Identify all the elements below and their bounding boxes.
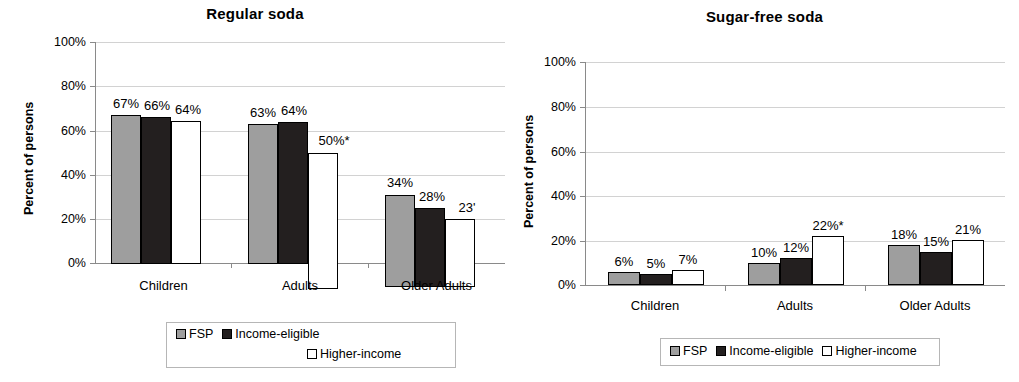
category-tick-1-regular (231, 263, 232, 268)
legend-swatch-income-eligible-icon (716, 346, 726, 356)
legend-swatch-higher-income-icon (822, 346, 832, 356)
data-label-sugarfree-adults-income: 12% (769, 240, 823, 255)
plot-area-sugarfree: 6% 5% 7% 10% 12% 22%* 18% 15% 21% (585, 62, 1005, 286)
legend-entry-income-eligible-sugarfree: Income-eligible (716, 344, 813, 358)
category-label-regular-older: Older Adults (368, 278, 505, 293)
category-tick-2-sugarfree (865, 285, 866, 291)
y-tick-mark-100-regular (90, 42, 95, 43)
y-tick-mark-40-sugarfree (580, 196, 585, 197)
y-tick-label-40-sugarfree: 40% (524, 189, 576, 203)
legend-label-income-eligible-regular: Income-eligible (235, 327, 319, 341)
category-label-sugarfree-children: Children (585, 298, 725, 313)
data-label-regular-older-higher: 23' (440, 200, 494, 215)
y-tick-label-20-regular: 20% (34, 212, 86, 226)
y-tick-mark-0-regular (90, 263, 95, 264)
y-tick-mark-40-regular (90, 175, 95, 176)
bar-regular-adults-higher (308, 153, 338, 289)
data-label-regular-adults-income: 64% (267, 103, 321, 118)
category-label-regular-children: Children (95, 278, 232, 293)
bar-sugarfree-children-fsp (608, 272, 640, 285)
y-tick-label-40-regular: 40% (34, 168, 86, 182)
y-tick-label-100-regular: 100% (34, 35, 86, 49)
y-tick-label-100-sugarfree: 100% (524, 55, 576, 69)
data-label-sugarfree-children-higher: 7% (661, 252, 715, 267)
y-axis-title-regular: Percent of persons (22, 102, 36, 215)
data-label-regular-children-higher: 64% (161, 102, 215, 117)
category-label-regular-adults: Adults (232, 278, 368, 293)
legend-entry-income-eligible-regular: Income-eligible (222, 327, 319, 341)
plot-area-regular: 67% 66% 64% 63% 64% 50%* 34% 28% 23' (95, 42, 505, 264)
legend-swatch-fsp-icon (176, 329, 186, 339)
bar-sugarfree-older-income (920, 252, 952, 285)
y-tick-label-60-regular: 60% (34, 124, 86, 138)
y-tick-mark-100-sugarfree (580, 62, 585, 63)
bar-regular-children-income (141, 117, 171, 264)
y-tick-label-80-sugarfree: 80% (524, 100, 576, 114)
y-tick-mark-20-regular (90, 219, 95, 220)
legend-swatch-income-eligible-icon (222, 329, 232, 339)
legend-label-fsp-regular: FSP (189, 327, 213, 341)
y-tick-label-0-regular: 0% (34, 256, 86, 270)
chart-title-sugar-free-soda: Sugar-free soda (510, 8, 1019, 25)
gridline-40-sf (585, 196, 1005, 197)
data-label-sugarfree-older-higher: 21% (941, 222, 995, 237)
figure-two-panel-bar-charts: Regular soda Percent of persons (0, 0, 1019, 382)
legend-regular: FSP Income-eligible Higher-income (166, 322, 456, 368)
legend-entry-higher-income-regular: Higher-income (307, 347, 401, 361)
bar-regular-older-higher (445, 219, 475, 287)
chart-panel-regular-soda: Regular soda Percent of persons (0, 0, 510, 382)
data-label-sugarfree-adults-higher: 22%* (799, 218, 857, 233)
y-axis-line-regular (95, 42, 96, 264)
bar-regular-adults-fsp (248, 124, 278, 264)
gridline-60-sf (585, 152, 1005, 153)
legend-entry-fsp-sugarfree: FSP (670, 344, 707, 358)
legend-row-1-sugarfree: FSP Income-eligible Higher-income (670, 344, 917, 358)
legend-swatch-higher-income-icon (307, 349, 317, 359)
gridline-80-sf (585, 107, 1005, 108)
legend-label-fsp-sugarfree: FSP (683, 344, 707, 358)
chart-title-regular-soda: Regular soda (0, 5, 510, 22)
gridline-100-sf (585, 62, 1005, 63)
category-tick-1-sugarfree (725, 285, 726, 291)
legend-label-income-eligible-sugarfree: Income-eligible (729, 344, 813, 358)
y-axis-title-sugarfree: Percent of persons (522, 115, 536, 228)
legend-row-1-regular: FSP Income-eligible (176, 327, 319, 341)
y-tick-mark-20-sugarfree (580, 241, 585, 242)
gridline-80 (95, 86, 505, 87)
legend-label-higher-income-regular: Higher-income (320, 347, 401, 361)
y-tick-mark-60-sugarfree (580, 152, 585, 153)
data-label-regular-adults-higher: 50%* (303, 133, 365, 148)
y-tick-label-60-sugarfree: 60% (524, 145, 576, 159)
category-label-sugarfree-older: Older Adults (865, 298, 1005, 313)
y-tick-label-80-regular: 80% (34, 79, 86, 93)
x-axis-baseline-sugarfree (585, 285, 1005, 286)
chart-panel-sugar-free-soda: Sugar-free soda Percent of persons (510, 0, 1019, 382)
bar-regular-older-fsp (385, 195, 415, 287)
category-tick-2-regular (368, 263, 369, 268)
legend-sugarfree: FSP Income-eligible Higher-income (660, 338, 940, 366)
legend-label-higher-income-sugarfree: Higher-income (835, 344, 916, 358)
bar-sugarfree-children-higher (672, 270, 704, 285)
bar-regular-older-income (415, 208, 445, 287)
bar-regular-children-higher (171, 121, 201, 264)
bar-sugarfree-children-income (640, 274, 672, 285)
bar-regular-children-fsp (111, 115, 141, 264)
category-label-sugarfree-adults: Adults (725, 298, 865, 313)
legend-swatch-fsp-icon (670, 346, 680, 356)
y-axis-line-sugarfree (585, 62, 586, 286)
legend-entry-fsp-regular: FSP (176, 327, 213, 341)
bar-sugarfree-adults-income (780, 258, 812, 285)
y-tick-mark-80-sugarfree (580, 107, 585, 108)
legend-entry-higher-income-sugarfree: Higher-income (822, 344, 916, 358)
y-tick-label-0-sugarfree: 0% (524, 278, 576, 292)
y-tick-label-20-sugarfree: 20% (524, 234, 576, 248)
y-tick-mark-60-regular (90, 131, 95, 132)
data-label-regular-older-fsp: 34% (373, 175, 427, 190)
legend-row-2-regular: Higher-income (307, 347, 401, 361)
bar-sugarfree-older-fsp (888, 245, 920, 285)
gridline-100 (95, 42, 505, 43)
bar-sugarfree-adults-fsp (748, 263, 780, 285)
y-tick-mark-0-sugarfree (580, 285, 585, 286)
y-tick-mark-80-regular (90, 86, 95, 87)
